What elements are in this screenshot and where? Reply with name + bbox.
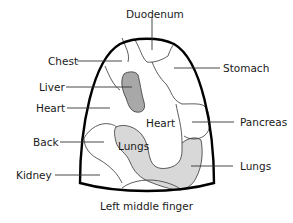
label-lungs-right: Lungs	[240, 160, 271, 172]
label-kidney: Kidney	[16, 169, 52, 181]
label-lungs-center: Lungs	[118, 140, 149, 152]
liver-region	[122, 72, 145, 112]
diagram-title: Left middle finger	[100, 200, 194, 212]
label-pancreas: Pancreas	[240, 116, 287, 128]
label-chest: Chest	[48, 55, 78, 67]
label-heart-center: Heart	[146, 117, 175, 129]
finger-reflexology-diagram: Duodenum Chest Stomach Liver Heart Heart…	[0, 0, 293, 223]
label-stomach: Stomach	[223, 62, 269, 74]
label-duodenum: Duodenum	[126, 8, 184, 20]
label-back: Back	[33, 136, 59, 148]
label-liver: Liver	[39, 81, 65, 93]
label-heart-left: Heart	[36, 102, 65, 114]
